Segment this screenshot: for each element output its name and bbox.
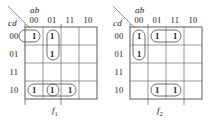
col-header-2: 11 bbox=[166, 16, 184, 25]
kmap-figure: ab cd 00 01 11 10 00 01 11 10 1 1 1 1 1 … bbox=[0, 0, 211, 123]
col-header-1: 01 bbox=[43, 16, 61, 25]
row-header-1: 01 bbox=[111, 50, 127, 59]
cell-r0-c2: 1 bbox=[166, 32, 184, 41]
cell-r1-c1: 1 bbox=[43, 50, 61, 59]
function-label-f2: f2 bbox=[157, 106, 163, 117]
cell-r3-c2: 1 bbox=[166, 86, 184, 95]
col-header-3: 10 bbox=[184, 16, 202, 25]
col-header-3: 10 bbox=[79, 16, 97, 25]
row-variable-label: cd bbox=[8, 19, 17, 28]
cell-r3-c1: 1 bbox=[148, 86, 166, 95]
row-header-2: 11 bbox=[6, 68, 22, 77]
kmap-f2: ab cd 00 01 11 10 00 01 11 10 1 1 1 1 1 … bbox=[105, 0, 211, 123]
function-label-f2-sub: 2 bbox=[160, 110, 163, 117]
cell-r0-c1: 1 bbox=[148, 32, 166, 41]
cell-r3-c1: 1 bbox=[43, 86, 61, 95]
row-header-0: 00 bbox=[111, 32, 127, 41]
kmap-f1: ab cd 00 01 11 10 00 01 11 10 1 1 1 1 1 … bbox=[0, 0, 106, 123]
col-header-0: 00 bbox=[130, 16, 148, 25]
cell-r0-c0: 1 bbox=[25, 32, 43, 41]
col-header-2: 11 bbox=[61, 16, 79, 25]
cell-r1-c0: 1 bbox=[130, 50, 148, 59]
col-header-1: 01 bbox=[148, 16, 166, 25]
row-variable-label: cd bbox=[113, 19, 122, 28]
row-header-3: 10 bbox=[111, 86, 127, 95]
cell-r3-c2: 1 bbox=[61, 86, 79, 95]
col-variable-label: ab bbox=[135, 6, 144, 15]
row-header-1: 01 bbox=[6, 50, 22, 59]
row-header-0: 00 bbox=[6, 32, 22, 41]
row-header-2: 11 bbox=[111, 68, 127, 77]
cell-r0-c1: 1 bbox=[43, 32, 61, 41]
row-header-3: 10 bbox=[6, 86, 22, 95]
col-header-0: 00 bbox=[25, 16, 43, 25]
function-label-f1-sub: 1 bbox=[55, 110, 58, 117]
col-variable-label: ab bbox=[30, 6, 39, 15]
function-label-f1: f1 bbox=[52, 106, 58, 117]
cell-r0-c0: 1 bbox=[130, 32, 148, 41]
cell-r3-c0: 1 bbox=[25, 86, 43, 95]
